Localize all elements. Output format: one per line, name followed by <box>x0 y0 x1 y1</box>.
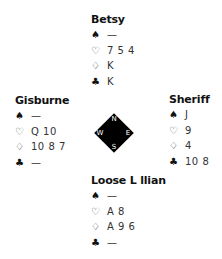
compass-north-label: N <box>110 115 118 123</box>
compass-icon: N S W E <box>94 113 134 153</box>
hearts-icon: ♡ <box>15 124 31 140</box>
suit-row-clubs: ♣10 8 <box>169 154 210 170</box>
spades-icon: ♠ <box>15 108 31 124</box>
suit-row-diamonds: ♢4 <box>169 138 210 154</box>
suit-row-spades: ♠J <box>169 107 210 123</box>
suit-row-spades: ♠— <box>15 108 69 124</box>
suit-row-hearts: ♡Q 10 <box>15 124 69 140</box>
suit-row-clubs: ♣— <box>15 155 69 171</box>
card-values: 4 <box>185 140 192 151</box>
diamonds-icon: ♢ <box>91 58 107 74</box>
clubs-icon: ♣ <box>91 235 107 251</box>
card-values: A 9 6 <box>107 221 135 232</box>
clubs-icon: ♣ <box>169 154 185 170</box>
hand-south: Loose L llian ♠— ♡A 8 ♢A 9 6 ♣— <box>91 174 166 250</box>
suit-row-hearts: ♡A 8 <box>91 204 166 220</box>
hearts-icon: ♡ <box>169 123 185 139</box>
card-values: K <box>107 60 114 71</box>
spades-icon: ♠ <box>91 188 107 204</box>
card-values: A 8 <box>107 206 125 217</box>
compass-west-label: W <box>96 129 104 137</box>
card-values: K <box>107 76 114 87</box>
card-values: J <box>185 109 188 120</box>
card-values: — <box>107 190 118 201</box>
card-values: — <box>31 157 42 168</box>
card-values: 10 8 <box>185 156 209 167</box>
suit-row-clubs: ♣— <box>91 235 166 251</box>
card-values: — <box>107 237 118 248</box>
player-name-south: Loose L llian <box>91 174 166 188</box>
compass-south-label: S <box>110 143 118 151</box>
suit-row-clubs: ♣K <box>91 74 135 90</box>
player-name-east: Sheriff <box>169 93 210 107</box>
hearts-icon: ♡ <box>91 204 107 220</box>
player-name-west: Gisburne <box>15 94 69 108</box>
hand-west: Gisburne ♠— ♡Q 10 ♢10 8 7 ♣— <box>15 94 69 170</box>
suit-row-hearts: ♡9 <box>169 123 210 139</box>
card-values: 9 <box>185 125 192 136</box>
hearts-icon: ♡ <box>91 43 107 59</box>
suit-row-spades: ♠— <box>91 27 135 43</box>
player-name-north: Betsy <box>91 13 135 27</box>
spades-icon: ♠ <box>91 27 107 43</box>
clubs-icon: ♣ <box>91 74 107 90</box>
suit-row-hearts: ♡7 5 4 <box>91 43 135 59</box>
spades-icon: ♠ <box>169 107 185 123</box>
suit-row-diamonds: ♢A 9 6 <box>91 219 166 235</box>
suit-row-diamonds: ♢K <box>91 58 135 74</box>
card-values: 7 5 4 <box>107 45 135 56</box>
clubs-icon: ♣ <box>15 155 31 171</box>
card-values: — <box>107 29 118 40</box>
compass-east-label: E <box>124 129 132 137</box>
suit-row-spades: ♠— <box>91 188 166 204</box>
card-values: — <box>31 110 42 121</box>
diamonds-icon: ♢ <box>15 139 31 155</box>
hand-north: Betsy ♠— ♡7 5 4 ♢K ♣K <box>91 13 135 89</box>
diamonds-icon: ♢ <box>91 219 107 235</box>
diamonds-icon: ♢ <box>169 138 185 154</box>
card-values: Q 10 <box>31 126 57 137</box>
hand-east: Sheriff ♠J ♡9 ♢4 ♣10 8 <box>169 93 210 169</box>
suit-row-diamonds: ♢10 8 7 <box>15 139 69 155</box>
card-values: 10 8 7 <box>31 141 66 152</box>
